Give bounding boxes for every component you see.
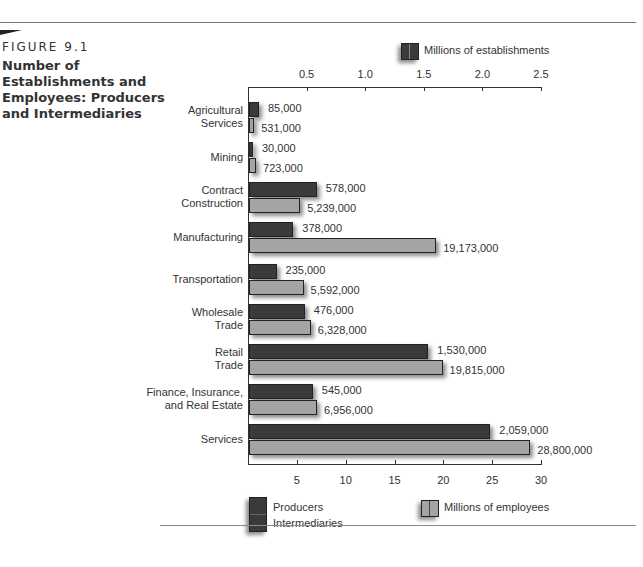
establishments-bar [249, 344, 428, 359]
employees-bar [249, 238, 436, 253]
employees-value-label: 5,239,000 [307, 202, 356, 214]
establishments-bar [249, 384, 313, 399]
establishments-value-label: 1,530,000 [437, 344, 486, 356]
establishments-value-label: 378,000 [302, 222, 342, 234]
establishments-value-label: 30,000 [262, 142, 296, 154]
top-rule [0, 22, 636, 23]
establishments-bar [249, 102, 259, 117]
legend-employees-label: Millions of employees [444, 501, 549, 513]
legend-establishments-label: Millions of establishments [424, 44, 549, 56]
bottom-rule [160, 525, 636, 526]
figure-title: Number of Establishments and Employees: … [2, 58, 172, 122]
establishments-bar [249, 182, 317, 197]
corner-wedge-decoration [0, 30, 22, 35]
employees-bar [249, 360, 443, 375]
employees-value-label: 19,173,000 [443, 242, 498, 254]
category-label: Transportation [172, 273, 243, 286]
legend-establishments-swatch [401, 43, 419, 60]
top-axis-tick-label: 1.0 [345, 68, 385, 80]
bottom-axis-tick [297, 460, 298, 464]
establishments-value-label: 545,000 [322, 384, 362, 396]
employees-bar [249, 158, 256, 173]
establishments-value-label: 235,000 [286, 264, 326, 276]
bottom-axis-tick [443, 460, 444, 464]
bottom-axis-tick-label: 10 [326, 474, 366, 486]
bottom-axis-tick-label: 5 [277, 474, 317, 486]
employees-value-label: 531,000 [261, 122, 301, 134]
establishments-bar [249, 142, 253, 157]
category-label: Services [201, 433, 243, 446]
employees-value-label: 6,328,000 [318, 324, 367, 336]
bottom-axis-tick-label: 30 [521, 474, 561, 486]
establishments-value-label: 85,000 [268, 102, 302, 114]
category-label: ContractConstruction [181, 184, 243, 210]
category-label: Finance, Insurance,and Real Estate [146, 386, 243, 412]
bottom-axis-tick [346, 460, 347, 464]
employees-bar [249, 320, 311, 335]
top-axis-tick [424, 87, 425, 91]
legend-intermediaries-label: Intermediaries [273, 517, 343, 529]
category-label: AgriculturalServices [188, 104, 243, 130]
bottom-axis-tick [541, 460, 542, 464]
establishments-value-label: 2,059,000 [499, 424, 548, 436]
top-axis-tick [541, 87, 542, 91]
employees-bar [249, 400, 317, 415]
employees-bar [249, 198, 300, 213]
establishments-bar [249, 424, 490, 439]
employees-value-label: 5,592,000 [311, 284, 360, 296]
category-label: Manufacturing [173, 231, 243, 244]
employees-bar [249, 118, 254, 133]
top-axis-tick-label: 2.5 [521, 68, 561, 80]
top-axis-tick-label: 2.0 [462, 68, 502, 80]
bottom-axis-tick [395, 460, 396, 464]
top-axis-tick [365, 87, 366, 91]
establishments-value-label: 578,000 [326, 182, 366, 194]
top-axis-tick-label: 1.5 [404, 68, 444, 80]
figure-label: FIGURE 9.1 [2, 40, 89, 54]
bottom-axis-tick-label: 15 [375, 474, 415, 486]
bottom-axis-tick-label: 20 [423, 474, 463, 486]
legend-producers-label: Producers [273, 501, 323, 513]
top-axis-tick-label: 0.5 [287, 68, 327, 80]
legend-producers-intermediaries-swatch [249, 497, 267, 532]
employees-value-label: 28,800,000 [537, 444, 592, 456]
employees-value-label: 6,956,000 [324, 404, 373, 416]
establishments-value-label: 476,000 [314, 304, 354, 316]
employees-bar [249, 440, 530, 455]
top-axis-tick [307, 87, 308, 91]
top-axis-tick [482, 87, 483, 91]
bottom-axis-line [248, 464, 542, 465]
bottom-axis-tick-label: 25 [472, 474, 512, 486]
employees-value-label: 723,000 [263, 162, 303, 174]
category-label: Mining [211, 151, 243, 164]
employees-bar [249, 280, 304, 295]
employees-value-label: 19,815,000 [450, 364, 505, 376]
establishments-bar [249, 222, 293, 237]
category-label: WholesaleTrade [192, 306, 243, 332]
legend-employees-swatch [421, 500, 439, 517]
bottom-axis-tick [492, 460, 493, 464]
establishments-bar [249, 304, 305, 319]
top-axis-line [248, 87, 542, 88]
category-label: RetailTrade [215, 346, 243, 372]
establishments-bar [249, 264, 277, 279]
